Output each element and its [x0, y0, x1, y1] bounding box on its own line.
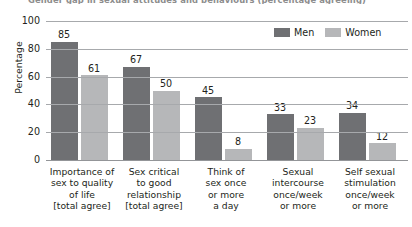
- legend-swatch-icon: [325, 28, 341, 37]
- bar-men: [123, 67, 150, 160]
- bar-women: [153, 91, 180, 161]
- bar-men: [51, 42, 78, 160]
- x-axis-label: Sexualintercourseonce/weekor more: [262, 166, 334, 211]
- x-axis-label-line: Sexual: [262, 166, 334, 177]
- x-axis-label-line: or more: [262, 200, 334, 211]
- x-axis-label-line: a day: [190, 200, 262, 211]
- x-axis-label-line: Think of: [190, 166, 262, 177]
- bar-men: [339, 113, 366, 160]
- x-axis-label-line: of life: [46, 189, 118, 200]
- chart-legend: MenWomen: [274, 27, 381, 38]
- bar-men: [267, 114, 294, 160]
- x-axis-label-line: Sex critical: [118, 166, 190, 177]
- bar-women: [369, 143, 396, 160]
- bar-value-label: 85: [47, 30, 81, 40]
- gridline-80: [46, 49, 408, 50]
- bar-value-label: 34: [335, 101, 369, 111]
- legend-item-women[interactable]: Women: [325, 27, 381, 38]
- legend-swatch-icon: [274, 28, 290, 37]
- y-tick-label-60: 60: [6, 72, 40, 82]
- bar-men: [195, 97, 222, 160]
- y-tick-label-20: 20: [6, 127, 40, 137]
- legend-label: Men: [294, 27, 314, 38]
- y-tick-label-100: 100: [6, 16, 40, 26]
- x-axis-category-labels: Importance ofsex to qualityof life[total…: [46, 166, 408, 224]
- gridline-40: [46, 104, 408, 105]
- x-axis-label-line: intercourse: [262, 177, 334, 188]
- gridline-100: [46, 21, 408, 22]
- legend-item-men[interactable]: Men: [274, 27, 314, 38]
- x-axis-label-line: sex to quality: [46, 177, 118, 188]
- x-axis-label-line: [total agree]: [118, 200, 190, 211]
- bar-value-label: 50: [149, 79, 183, 89]
- x-axis-label: Importance ofsex to qualityof life[total…: [46, 166, 118, 211]
- x-axis-label-line: to good: [118, 177, 190, 188]
- x-axis-label-line: Self sexual: [334, 166, 406, 177]
- x-axis-label-line: once/week: [334, 189, 406, 200]
- x-axis-label-line: stimulation: [334, 177, 406, 188]
- bar-group: 8561: [46, 14, 118, 162]
- bar-women: [225, 149, 252, 160]
- gridline-0: [46, 160, 408, 161]
- x-axis-label-line: or more: [190, 189, 262, 200]
- x-axis-label-line: sex once: [190, 177, 262, 188]
- bar-value-label: 8: [221, 137, 255, 147]
- x-axis-label: Self sexualstimulationonce/weekor more: [334, 166, 406, 211]
- bar-chart-figure: Gender gap in sexual attitudes and behav…: [0, 0, 412, 227]
- bar-value-label: 61: [77, 64, 111, 74]
- bar-group: 6750: [118, 14, 190, 162]
- bar-value-label: 67: [119, 55, 153, 65]
- x-axis-label-line: [total agree]: [46, 200, 118, 211]
- bar-group: 458: [190, 14, 262, 162]
- y-tick-label-80: 80: [6, 44, 40, 54]
- legend-label: Women: [345, 27, 381, 38]
- x-axis-label-line: Importance of: [46, 166, 118, 177]
- y-tick-label-0: 0: [6, 155, 40, 165]
- x-axis-label: Think ofsex onceor morea day: [190, 166, 262, 211]
- gridline-20: [46, 132, 408, 133]
- x-axis-label: Sex criticalto goodrelationship[total ag…: [118, 166, 190, 211]
- gridline-60: [46, 77, 408, 78]
- chart-title-clipped: Gender gap in sexual attitudes and behav…: [28, 0, 408, 4]
- x-axis-label-line: or more: [334, 200, 406, 211]
- bar-value-label: 23: [293, 116, 327, 126]
- y-tick-label-40: 40: [6, 99, 40, 109]
- x-axis-label-line: relationship: [118, 189, 190, 200]
- bar-value-label: 45: [191, 86, 225, 96]
- bar-women: [81, 75, 108, 160]
- x-axis-label-line: once/week: [262, 189, 334, 200]
